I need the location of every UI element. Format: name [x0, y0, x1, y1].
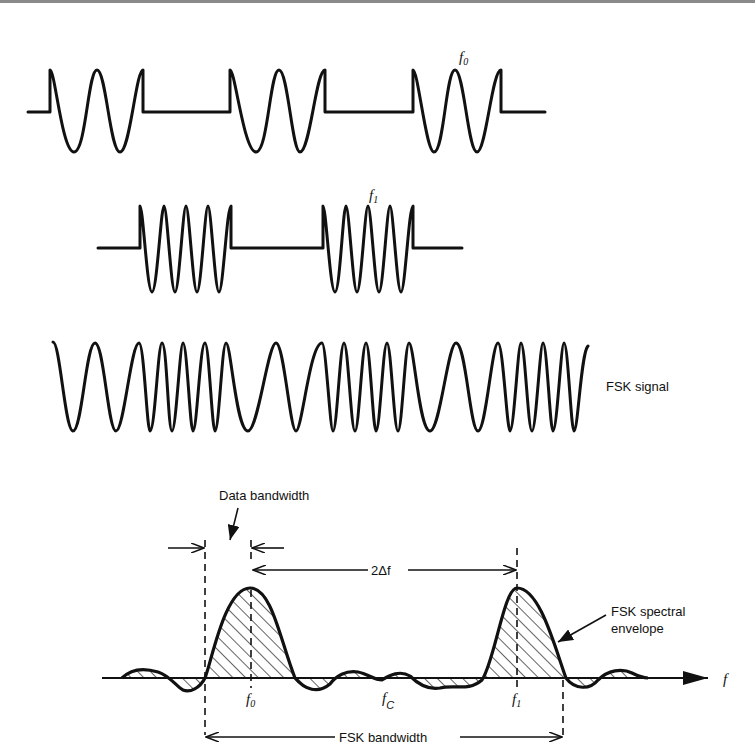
f1-label: f1: [369, 187, 378, 205]
fsk-bandwidth-label: FSK bandwidth: [339, 730, 427, 745]
fc-marker-label: fC: [382, 690, 394, 711]
f0-waveform: f0: [28, 49, 545, 152]
data-bandwidth-pointer: [230, 508, 238, 540]
envelope-label-line1: FSK spectral: [611, 604, 686, 619]
f1-waveform: f1: [98, 187, 462, 292]
envelope-label-line2: envelope: [611, 621, 664, 636]
two-delta-f-label: 2Δf: [371, 563, 391, 578]
f0-label: f0: [459, 49, 468, 67]
envelope-pointer: [558, 615, 606, 642]
fsk-signal-label: FSK signal: [606, 379, 669, 394]
fsk-spectrum: f f0 fC f1 FSK bandwidth 2Δf Data bandwi…: [102, 488, 729, 745]
fsk-diagram: f0 f1 FSK signal f f0 fC f1 FSK bandwidt…: [0, 0, 755, 749]
f1-marker-label: f1: [512, 691, 521, 709]
frequency-axis-label: f: [723, 671, 729, 687]
f0-marker-label: f0: [246, 691, 255, 709]
data-bandwidth-label: Data bandwidth: [219, 488, 309, 503]
fsk-signal-waveform: FSK signal: [53, 342, 669, 431]
